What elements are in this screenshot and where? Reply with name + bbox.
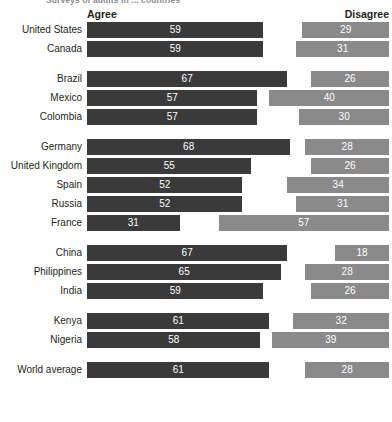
bar-value-disagree: 30 — [299, 109, 389, 125]
chart-row: Canada5931 — [0, 41, 392, 57]
bar-value-disagree: 31 — [296, 41, 389, 57]
category-label: Spain — [0, 177, 82, 193]
bar-group-europe: Germany6828United Kingdom5526Spain5234Ru… — [0, 139, 392, 231]
bar-disagree: 39 — [272, 332, 389, 348]
bar-value-agree: 67 — [87, 245, 287, 261]
bar-value-agree: 59 — [87, 283, 263, 299]
bar-agree: 59 — [87, 22, 263, 38]
bar-agree: 52 — [87, 177, 242, 193]
category-label: Colombia — [0, 109, 82, 125]
category-label: China — [0, 245, 82, 261]
bar-disagree: 26 — [311, 158, 389, 174]
bar-agree: 61 — [87, 313, 269, 329]
category-label: Brazil — [0, 71, 82, 87]
bar-disagree: 31 — [296, 41, 389, 57]
bar-value-disagree: 28 — [305, 139, 389, 155]
chart-row: France3157 — [0, 215, 392, 231]
chart-row: Philippines6528 — [0, 264, 392, 280]
chart-row: India5926 — [0, 283, 392, 299]
bar-disagree: 30 — [299, 109, 389, 125]
category-label: Kenya — [0, 313, 82, 329]
category-label: World average — [0, 362, 82, 378]
category-label: Mexico — [0, 90, 82, 106]
bar-value-disagree: 57 — [219, 215, 389, 231]
bar-disagree: 26 — [311, 71, 389, 87]
chart-row: Russia5231 — [0, 196, 392, 212]
bar-disagree: 26 — [311, 283, 389, 299]
category-label: Nigeria — [0, 332, 82, 348]
bar-value-agree: 61 — [87, 362, 269, 378]
bar-agree: 31 — [87, 215, 180, 231]
bar-agree: 58 — [87, 332, 260, 348]
bar-value-disagree: 32 — [293, 313, 389, 329]
bar-value-disagree: 18 — [335, 245, 389, 261]
bar-value-agree: 57 — [87, 109, 257, 125]
bar-value-agree: 52 — [87, 177, 242, 193]
bar-disagree: 28 — [305, 362, 389, 378]
category-label: Philippines — [0, 264, 82, 280]
bar-value-disagree: 26 — [311, 158, 389, 174]
chart-row: China6718 — [0, 245, 392, 261]
category-label: Germany — [0, 139, 82, 155]
bar-value-agree: 59 — [87, 41, 263, 57]
bar-value-disagree: 26 — [311, 283, 389, 299]
bar-value-disagree: 28 — [305, 264, 389, 280]
source-note-clipped: Surveys of adults in ... countries — [0, 0, 392, 7]
bar-disagree: 57 — [219, 215, 389, 231]
category-label: France — [0, 215, 82, 231]
bar-disagree: 40 — [269, 90, 389, 106]
bar-agree: 57 — [87, 109, 257, 125]
chart-row: United States5929 — [0, 22, 392, 38]
grouped-bar-chart: Surveys of adults in ... countries Agree… — [0, 0, 392, 422]
bar-disagree: 18 — [335, 245, 389, 261]
bar-value-agree: 58 — [87, 332, 260, 348]
bar-agree: 57 — [87, 90, 257, 106]
bar-value-agree: 55 — [87, 158, 251, 174]
bar-value-disagree: 31 — [296, 196, 389, 212]
category-label: Canada — [0, 41, 82, 57]
category-label: United States — [0, 22, 82, 38]
category-label: Russia — [0, 196, 82, 212]
bar-agree: 59 — [87, 283, 263, 299]
bar-agree: 65 — [87, 264, 281, 280]
bar-value-agree: 52 — [87, 196, 242, 212]
bar-disagree: 31 — [296, 196, 389, 212]
bar-value-disagree: 39 — [272, 332, 389, 348]
bar-disagree: 29 — [302, 22, 389, 38]
bar-agree: 55 — [87, 158, 251, 174]
bar-value-agree: 67 — [87, 71, 287, 87]
bar-disagree: 32 — [293, 313, 389, 329]
bar-disagree: 28 — [305, 139, 389, 155]
bar-value-disagree: 34 — [287, 177, 389, 193]
bar-agree: 59 — [87, 41, 263, 57]
chart-row: World average6128 — [0, 362, 392, 378]
chart-row: Mexico5740 — [0, 90, 392, 106]
chart-row: Kenya6132 — [0, 313, 392, 329]
chart-row: Brazil6726 — [0, 71, 392, 87]
legend-label-agree: Agree — [87, 8, 117, 20]
bar-value-disagree: 29 — [302, 22, 389, 38]
bar-disagree: 28 — [305, 264, 389, 280]
chart-row: Spain5234 — [0, 177, 392, 193]
bar-value-agree: 61 — [87, 313, 269, 329]
bar-group-north-america: United States5929Canada5931 — [0, 22, 392, 57]
source-note-text: Surveys of adults in ... countries — [46, 0, 180, 5]
category-label: United Kingdom — [0, 158, 82, 174]
bar-group-asia: China6718Philippines6528India5926 — [0, 245, 392, 299]
chart-row: Colombia5730 — [0, 109, 392, 125]
bar-group-latin-america: Brazil6726Mexico5740Colombia5730 — [0, 71, 392, 125]
bar-group-world: World average6128 — [0, 362, 392, 378]
bar-value-agree: 68 — [87, 139, 290, 155]
chart-row: United Kingdom5526 — [0, 158, 392, 174]
category-label: India — [0, 283, 82, 299]
bar-agree: 67 — [87, 71, 287, 87]
bar-value-agree: 57 — [87, 90, 257, 106]
bar-value-disagree: 28 — [305, 362, 389, 378]
bar-agree: 68 — [87, 139, 290, 155]
chart-row: Nigeria5839 — [0, 332, 392, 348]
bar-agree: 67 — [87, 245, 287, 261]
legend-label-disagree: Disagree — [345, 8, 389, 20]
bar-value-agree: 65 — [87, 264, 281, 280]
bar-value-agree: 31 — [87, 215, 180, 231]
bar-value-disagree: 40 — [269, 90, 389, 106]
